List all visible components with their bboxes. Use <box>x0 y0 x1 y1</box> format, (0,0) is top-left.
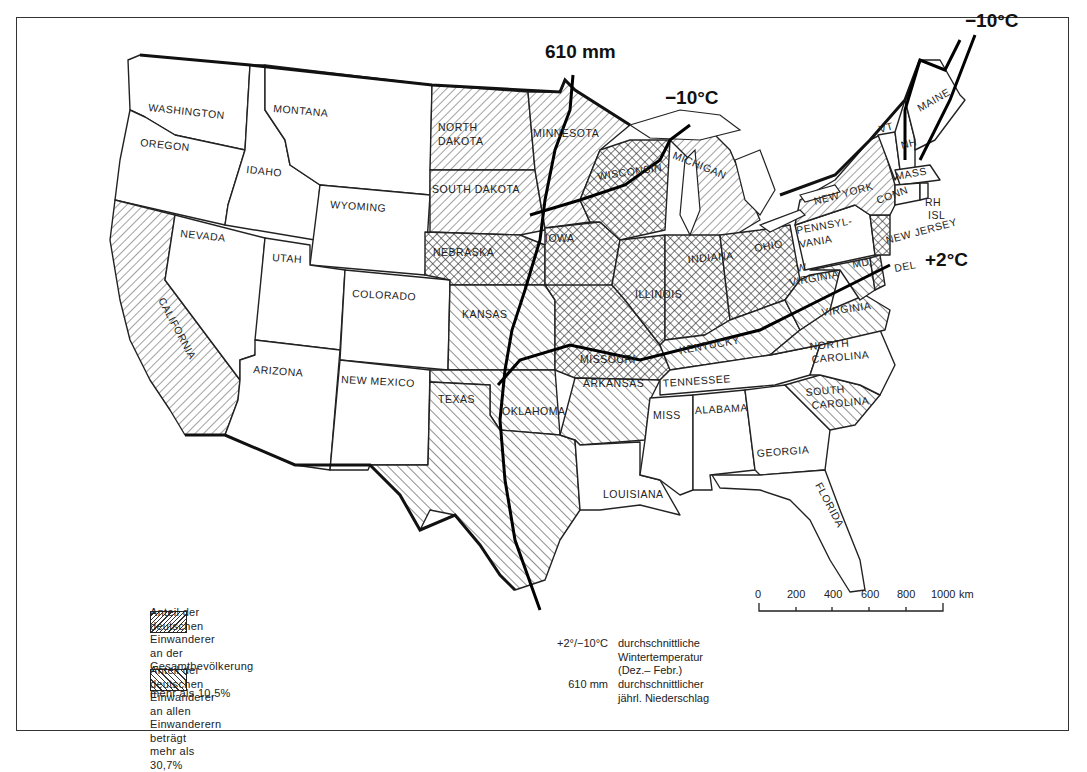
legend-precipitation-line1: durchschnittlicher <box>618 678 704 692</box>
legend-b-line3: mehr als 30,7% <box>150 745 221 772</box>
label-north-dakota-2: DAKOTA <box>438 135 483 147</box>
state-florida <box>712 470 865 592</box>
legend-climate: +2°/−10°C durchschnittliche Wintertemper… <box>550 637 770 717</box>
label-north-dakota-1: NORTH <box>438 121 478 133</box>
label-rhode-island-1: RH <box>925 196 941 208</box>
label-texas: TEXAS <box>438 393 475 405</box>
label-louisiana: LOUISIANA <box>603 488 664 500</box>
scale-bar-line <box>758 602 958 614</box>
legend-precipitation-key: 610 mm <box>550 678 608 692</box>
state-arizona <box>225 340 340 470</box>
legend-temperature-line3: (Dez.– Febr.) <box>618 664 682 678</box>
scale-tick-0: 0 <box>755 588 761 600</box>
state-wyoming <box>310 185 430 275</box>
scale-tick-200: 200 <box>787 588 805 600</box>
label-new-jersey: NEW JERSEY <box>884 215 958 246</box>
legend-temperature-line1: durchschnittliche <box>618 637 700 651</box>
label-south-dakota: SOUTH DAKOTA <box>432 183 520 195</box>
legend-a-line1: Anteil der deutschen Einwanderer <box>150 606 254 647</box>
label-kansas: KANSAS <box>462 308 508 320</box>
legend-temperature-key: +2°/−10°C <box>550 637 608 651</box>
legend-precipitation-line2: jährl. Niederschlag <box>618 692 709 706</box>
scale-unit: km <box>959 588 974 600</box>
lake-superior <box>630 110 740 140</box>
legend-temperature-line2: Wintertemperatur <box>618 651 703 665</box>
state-kansas <box>448 285 555 370</box>
isoline-label-610mm: 610 mm <box>545 41 616 62</box>
scale-tick-400: 400 <box>824 588 842 600</box>
legend-item-all-immigrants: Anteil der deutschen Einwanderer an alle… <box>150 664 196 691</box>
isoline-label-minus10c-lakes: −10°C <box>665 87 719 108</box>
label-rhode-island-2: ISL <box>928 209 945 221</box>
label-delaware: DEL <box>893 258 917 274</box>
legend-b-line2: an allen Einwanderern beträgt <box>150 705 221 746</box>
scale-tick-800: 800 <box>897 588 915 600</box>
label-oklahoma: OKLAHOMA <box>502 405 566 417</box>
state-colorado <box>340 270 450 370</box>
isoline-label-minus10c-north: −10°C <box>965 10 1019 31</box>
label-illinois: ILLINOIS <box>635 288 682 300</box>
label-arkansas: ARKANSAS <box>583 377 644 389</box>
label-minnesota: MINNESOTA <box>533 127 599 139</box>
scale-tick-600: 600 <box>861 588 879 600</box>
scale-tick-1000: 1000 <box>931 588 955 600</box>
label-mississippi: MISS <box>653 409 681 421</box>
label-iowa: IOWA <box>545 232 575 244</box>
state-nebraska <box>425 232 545 285</box>
label-nebraska: NEBRASKA <box>433 246 494 258</box>
label-missouri: MISSOURI <box>580 353 636 365</box>
isoline-label-plus2c: +2°C <box>925 249 968 270</box>
label-utah: UTAH <box>272 251 303 265</box>
legend-b-line1: Anteil der deutschen Einwanderer <box>150 664 221 705</box>
legend-item-total-population: Anteil der deutschen Einwanderer an der … <box>150 606 196 633</box>
state-south-dakota <box>430 170 545 235</box>
